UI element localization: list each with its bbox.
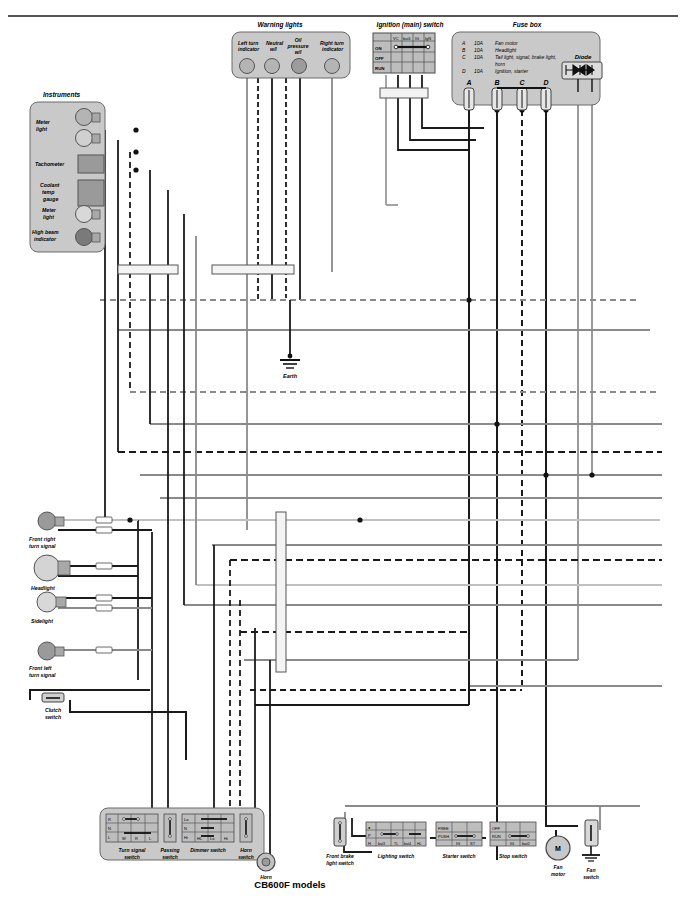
ignition-connector [380,88,428,98]
meter-light-bulb-2[interactable] [76,130,93,147]
meter-light-bulb-3[interactable] [76,206,93,223]
svg-text:Fan: Fan [554,864,563,870]
earth-label: Earth [283,373,298,379]
ss-row-push: PUSH [438,834,449,839]
front-lamps-group[interactable]: Front right turn signal Headlight Sideli… [29,512,112,678]
fuse-d-rating: 10A [474,68,484,74]
instruments-panel[interactable]: Instruments Meter light Tachometer Coola… [30,91,105,252]
lighting-switch[interactable]: ● P H bat3 TL bat4 HL Lighting switch [366,822,426,859]
svg-text:Horn: Horn [240,847,252,853]
center-connector [276,512,286,672]
svg-text:w/l: w/l [295,49,302,55]
connector-bar-right [212,265,294,274]
front-left-turn-signal-bulb[interactable] [38,642,56,660]
fuse-box-panel[interactable]: Fuse box A 10A Fan motor B 10A Headlight… [452,21,602,110]
svg-text:switch: switch [45,714,61,720]
svg-text:light: light [43,214,54,220]
horn[interactable]: Horn [257,853,275,880]
meter-light-bulb-1[interactable] [76,109,93,126]
fuse-b-circuit: Headlight [495,47,517,53]
svg-text:gauge: gauge [42,196,58,202]
ss-row-free: FREE [438,826,449,831]
fuse-d-id: D [462,68,466,74]
left-turn-indicator-bulb[interactable] [240,59,255,74]
ls-row-h: H [368,841,371,846]
stp-row-run: RUN [492,834,501,839]
svg-text:Fan: Fan [587,867,596,873]
svg-text:temp: temp [42,189,54,195]
svg-text:light: light [36,126,47,132]
ign-col-bat1: bat1 [403,36,412,41]
ign-col-ig: IG [415,36,419,41]
svg-text:indicator: indicator [238,46,260,52]
fuse-a-circuit: Fan motor [495,40,518,46]
wire-layer [30,75,662,860]
ls-row-p: P [368,833,371,838]
ss-col-ig: IG [456,841,460,846]
svg-text:Dimmer switch: Dimmer switch [190,847,226,853]
neutral-warning-bulb[interactable] [265,59,280,74]
fuse-a-rating: 10A [474,40,484,46]
ls-col-tl: TL [394,842,398,846]
handlebar-switch-block[interactable]: R N L W R L Turn signal switch Passing s… [100,808,275,880]
fuse-terminal-b: B [494,79,499,86]
instruments-label: Instruments [43,91,81,98]
svg-text:indicator: indicator [34,236,57,242]
fuse-d-circuit: Ignition, starter [495,68,528,74]
svg-text:w/l: w/l [270,46,277,52]
fan-switch[interactable]: Fan switch [582,820,600,880]
svg-text:switch: switch [583,874,599,880]
diode-label: Diode [575,54,592,60]
dim-row-hi: Hi [184,835,188,840]
clutch-switch[interactable]: Clutch switch [42,693,64,720]
fuse-c-circuit-2: horn [495,61,505,67]
ts-row-n: N [108,826,111,831]
right-turn-indicator-bulb[interactable] [325,59,340,74]
fuse-terminal-a: A [465,79,471,86]
instrument-label-0: Meter [36,119,51,125]
headlight-bulb[interactable] [34,555,60,581]
tachometer-box[interactable] [78,155,104,173]
high-beam-indicator-bulb[interactable] [76,229,93,246]
svg-text:switch: switch [162,854,178,860]
svg-text:Meter: Meter [42,207,57,213]
fan-motor[interactable]: M Fan motor [546,836,570,877]
instrument-label-2: Tachometer [35,161,65,167]
ignition-switch-label: Ignition (main) switch [377,21,444,29]
ign-col-vc: VC [393,36,399,41]
starter-switch[interactable]: FREE PUSH IG ST Starter switch [436,822,482,859]
wiring-diagram-svg: Instruments Meter light Tachometer Coola… [0,0,686,914]
front-left-turn-signal[interactable]: Front left turn signal [29,642,64,678]
headlight[interactable]: Headlight [31,555,70,591]
front-brake-light-switch[interactable]: Front brake light switch [326,818,354,866]
svg-text:Stop switch: Stop switch [499,853,527,859]
oil-pressure-warning-bulb[interactable] [292,59,307,74]
horn-switch[interactable]: Horn switch [238,814,254,860]
dim-row-n: N [184,826,187,831]
front-right-turn-signal-bulb[interactable] [38,512,56,530]
ign-col-ign: IgN [425,36,431,41]
ss-col-st: ST [470,841,476,846]
ignition-switch-panel[interactable]: Ignition (main) switch VC bat1 IG IgN ON… [373,21,443,73]
svg-text:Sidelight: Sidelight [31,618,53,624]
warning-lights-panel[interactable]: Warning lights Left turn indicator Neutr… [232,21,350,78]
svg-text:Front left: Front left [29,665,52,671]
ts-col-w: W [122,836,126,841]
svg-text:switch: switch [124,854,140,860]
bullet-connectors [96,517,112,653]
earth-symbol: Earth [280,354,300,379]
svg-text:Headlight: Headlight [31,585,55,591]
ts-col-r: R [135,836,138,841]
dim-col-hi: Hi [224,836,228,841]
fan-motor-symbol: M [555,845,561,852]
sidelight-bulb[interactable] [37,592,57,612]
ign-row-run: RUN [375,66,385,71]
fuse-box-label: Fuse box [513,21,542,28]
stp-row-off: OFF [492,826,501,831]
svg-text:turn signal: turn signal [29,543,56,549]
page-title: CB600F models [254,879,325,890]
svg-text:High beam: High beam [32,229,59,235]
fuse-b-rating: 10A [474,47,484,53]
coolant-temp-gauge-box[interactable] [78,180,104,206]
warning-lights-label: Warning lights [257,21,302,29]
